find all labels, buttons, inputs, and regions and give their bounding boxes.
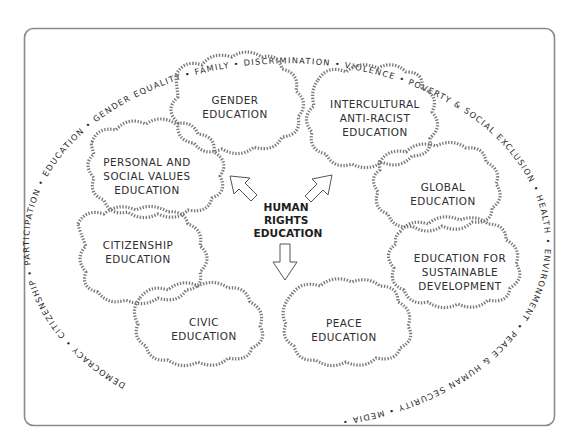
svg-text:PERSONAL ANDSOCIAL VALUESEDUCA: PERSONAL ANDSOCIAL VALUESEDUCATION: [103, 156, 191, 196]
svg-text:INTERCULTURALANTI-RACISTEDUCAT: INTERCULTURALANTI-RACISTEDUCATION: [330, 98, 420, 138]
human-rights-education-diagram: DEMOCRACY • CITIZENSHIP • PARTICIPATION …: [0, 0, 576, 448]
center-label-human-rights-education: HUMAN RIGHTS EDUCATION: [254, 201, 323, 239]
svg-text:EDUCATION FORSUSTAINABLEDEVELO: EDUCATION FORSUSTAINABLEDEVELOPMENT: [414, 252, 506, 292]
